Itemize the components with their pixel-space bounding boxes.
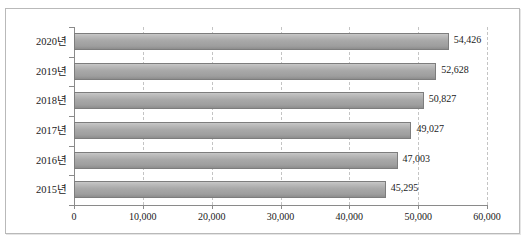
bar[interactable] xyxy=(74,33,449,50)
bar-value-label: 49,027 xyxy=(416,123,444,134)
gridline-60000 xyxy=(487,27,488,205)
bar[interactable] xyxy=(74,92,424,109)
y-axis-category-label: 2017년 xyxy=(36,122,67,137)
y-axis-category-label: 2019년 xyxy=(36,63,67,78)
x-tick-mark xyxy=(487,205,488,209)
x-tick-label: 10,000 xyxy=(129,211,157,222)
bar[interactable] xyxy=(74,63,436,80)
bar-value-label: 47,003 xyxy=(403,153,431,164)
x-tick-label: 30,000 xyxy=(267,211,295,222)
x-tick-mark xyxy=(418,205,419,209)
x-tick-label: 0 xyxy=(72,211,77,222)
bar[interactable] xyxy=(74,181,386,198)
x-tick-label: 20,000 xyxy=(198,211,226,222)
x-tick-label: 40,000 xyxy=(336,211,364,222)
x-tick-label: 60,000 xyxy=(473,211,501,222)
y-axis-category-label: 2018년 xyxy=(36,92,67,107)
bar[interactable] xyxy=(74,122,411,139)
bar-row: 2019년52,628 xyxy=(74,57,487,87)
y-axis-category-label: 2020년 xyxy=(36,33,67,48)
bar-row: 2018년50,827 xyxy=(74,86,487,116)
bar-row: 2017년49,027 xyxy=(74,116,487,146)
bar-value-label: 45,295 xyxy=(391,182,419,193)
plot-area: 2020년54,4262019년52,6282018년50,8272017년49… xyxy=(74,27,487,205)
x-tick-mark xyxy=(74,205,75,209)
bar-value-label: 54,426 xyxy=(454,34,482,45)
bar-row: 2016년47,003 xyxy=(74,146,487,176)
y-axis-category-label: 2016년 xyxy=(36,152,67,167)
bar[interactable] xyxy=(74,152,398,169)
bar-value-label: 50,827 xyxy=(429,93,457,104)
x-tick-mark xyxy=(281,205,282,209)
clipped-text-above xyxy=(0,0,527,7)
x-tick-mark xyxy=(143,205,144,209)
bar-row: 2015년45,295 xyxy=(74,175,487,205)
bar-value-label: 52,628 xyxy=(441,64,469,75)
x-tick-label: 50,000 xyxy=(404,211,432,222)
bar-row: 2020년54,426 xyxy=(74,27,487,57)
x-tick-mark xyxy=(212,205,213,209)
y-axis-category-label: 2015년 xyxy=(36,181,67,196)
x-tick-mark xyxy=(349,205,350,209)
chart-figure-frame: 2020년54,4262019년52,6282018년50,8272017년49… xyxy=(5,8,520,234)
